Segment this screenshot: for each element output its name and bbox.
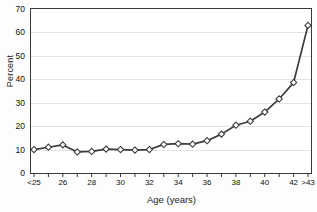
- data-point-marker: [190, 141, 196, 147]
- x-tick-label: 34: [165, 179, 191, 187]
- x-tick-label: <25: [21, 179, 47, 187]
- data-point-marker: [305, 22, 311, 28]
- data-point-marker: [89, 148, 95, 154]
- data-point-marker: [45, 144, 51, 150]
- x-tick-label: 26: [50, 179, 76, 187]
- data-point-marker: [175, 141, 181, 147]
- chart-figure: Percent 010203040506070 <252628303234363…: [0, 0, 317, 212]
- data-point-marker: [103, 146, 109, 152]
- x-tick-label: 40: [252, 179, 278, 187]
- x-tick-label: 32: [136, 179, 162, 187]
- x-tick-label: 38: [223, 179, 249, 187]
- data-point-marker: [60, 142, 66, 148]
- data-point-marker: [146, 146, 152, 152]
- x-tick-label: 28: [79, 179, 105, 187]
- data-point-markers: [31, 22, 311, 155]
- data-point-marker: [204, 138, 210, 144]
- x-tick-label: >43: [295, 179, 317, 187]
- data-point-marker: [117, 146, 123, 152]
- data-line-series: [34, 25, 308, 152]
- data-point-marker: [31, 146, 37, 152]
- x-tick-label: 36: [194, 179, 220, 187]
- data-point-marker: [132, 147, 138, 153]
- x-axis-tickmarks: [34, 174, 308, 177]
- x-axis-title: Age (years): [30, 194, 313, 205]
- data-point-marker: [74, 149, 80, 155]
- data-point-marker: [161, 141, 167, 147]
- x-tick-label: 30: [108, 179, 134, 187]
